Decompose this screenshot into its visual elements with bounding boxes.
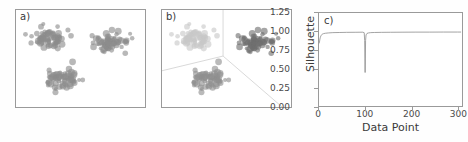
x-tick-mark	[412, 107, 413, 111]
x-tick-mark	[365, 107, 366, 111]
y-tick-mark	[314, 88, 318, 89]
y-tick-label: 1.00	[270, 27, 290, 36]
y-axis-title: Silhouette	[305, 4, 317, 84]
x-tick-label: 0	[303, 110, 333, 119]
x-axis-title: Data Point	[318, 122, 463, 134]
panel-b-clustered-scatter: b)	[161, 9, 292, 108]
y-tick-label: 0.00	[270, 103, 290, 112]
partition-boundaries	[162, 10, 282, 107]
point-cluster-0	[169, 22, 220, 51]
panel-b-label: b)	[166, 11, 176, 23]
panel-a-label: a)	[20, 11, 30, 23]
x-tick-label: 200	[397, 110, 427, 119]
point-cluster-2	[191, 58, 231, 95]
panel-c-label: c)	[324, 15, 333, 27]
panel-a-scatter: a)	[15, 9, 146, 108]
x-tick-label: 300	[443, 110, 468, 119]
x-tick-mark	[458, 107, 459, 111]
y-tick-label: 0.25	[270, 84, 290, 93]
x-tick-mark	[318, 107, 319, 111]
scatter-plot-a	[16, 10, 145, 107]
point-cluster-0	[23, 22, 74, 51]
y-tick-label: 0.75	[270, 46, 290, 55]
point-cluster-2	[45, 58, 85, 95]
chart-plot-area: c)	[318, 12, 463, 107]
y-tick-label: 1.25	[270, 8, 290, 17]
x-tick-label: 100	[350, 110, 380, 119]
panel-c-silhouette-chart: c) 0.000.250.500.751.001.25 0100200300 D…	[295, 0, 468, 142]
silhouette-curve	[319, 32, 461, 72]
point-cluster-1	[90, 27, 135, 56]
y-tick-label: 0.50	[270, 65, 290, 74]
silhouette-line	[319, 13, 462, 106]
figure-root: a) b) c) 0.000.250.500.751.001.25 010020…	[0, 0, 468, 142]
